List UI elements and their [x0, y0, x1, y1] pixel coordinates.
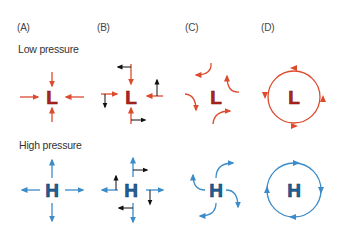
svg-text:H: H [287, 180, 301, 201]
panel-a-low: L [20, 72, 84, 122]
panel-a-high: H [22, 160, 83, 221]
panel-d-low: L [262, 65, 326, 129]
panel-b-high: H [102, 158, 163, 222]
svg-text:L: L [210, 87, 222, 108]
svg-text:L: L [125, 87, 137, 108]
high-symbol: H [45, 180, 59, 201]
panel-c-high: H [193, 163, 238, 216]
svg-text:L: L [288, 87, 300, 108]
panel-b-low: L [101, 64, 163, 124]
svg-text:H: H [209, 180, 223, 201]
panel-d-high: H [264, 160, 324, 220]
pressure-wind-diagram: L L L [0, 0, 341, 240]
low-symbol: L [46, 87, 58, 108]
svg-text:H: H [124, 180, 138, 201]
panel-c-low: L [185, 63, 239, 124]
